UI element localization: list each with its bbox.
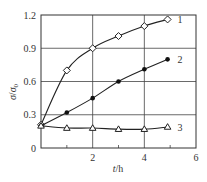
x-tick-label: 4	[142, 152, 147, 163]
circle-marker	[165, 57, 170, 62]
series-label: 3	[178, 122, 183, 133]
x-tick-label: 6	[194, 152, 199, 163]
diamond-marker	[115, 33, 122, 40]
diamond-marker	[141, 23, 148, 30]
series-line	[41, 126, 168, 130]
y-tick-label: 0	[31, 143, 36, 154]
series-3: 3	[38, 122, 183, 133]
series-2: 2	[39, 54, 183, 128]
y-tick-label: 0.3	[24, 109, 37, 120]
series-line	[41, 59, 168, 126]
series-label: 1	[178, 14, 183, 25]
diamond-marker	[63, 67, 70, 74]
y-axis-label: σ/σ0	[7, 83, 20, 100]
x-axis-label: t/h	[113, 163, 124, 174]
y-tick-label: 0.6	[24, 76, 37, 87]
diamond-marker	[89, 45, 96, 52]
y-tick-label: 1.2	[24, 10, 37, 21]
circle-marker	[142, 67, 147, 72]
x-axis-ticks: 246	[90, 152, 198, 163]
series-label: 2	[178, 54, 183, 65]
triangle-marker	[164, 124, 171, 130]
chart: 00.30.60.91.2 246 123 σ/σ0 t/h	[0, 0, 207, 182]
series-line	[41, 19, 168, 124]
series-group: 123	[38, 14, 183, 133]
x-tick-label: 2	[90, 152, 95, 163]
diamond-marker	[164, 16, 171, 23]
y-axis-ticks: 00.30.60.91.2	[24, 10, 37, 154]
circle-marker	[116, 79, 121, 84]
y-tick-label: 0.9	[24, 43, 37, 54]
circle-marker	[90, 96, 95, 101]
circle-marker	[65, 110, 70, 115]
series-1: 1	[38, 14, 183, 128]
